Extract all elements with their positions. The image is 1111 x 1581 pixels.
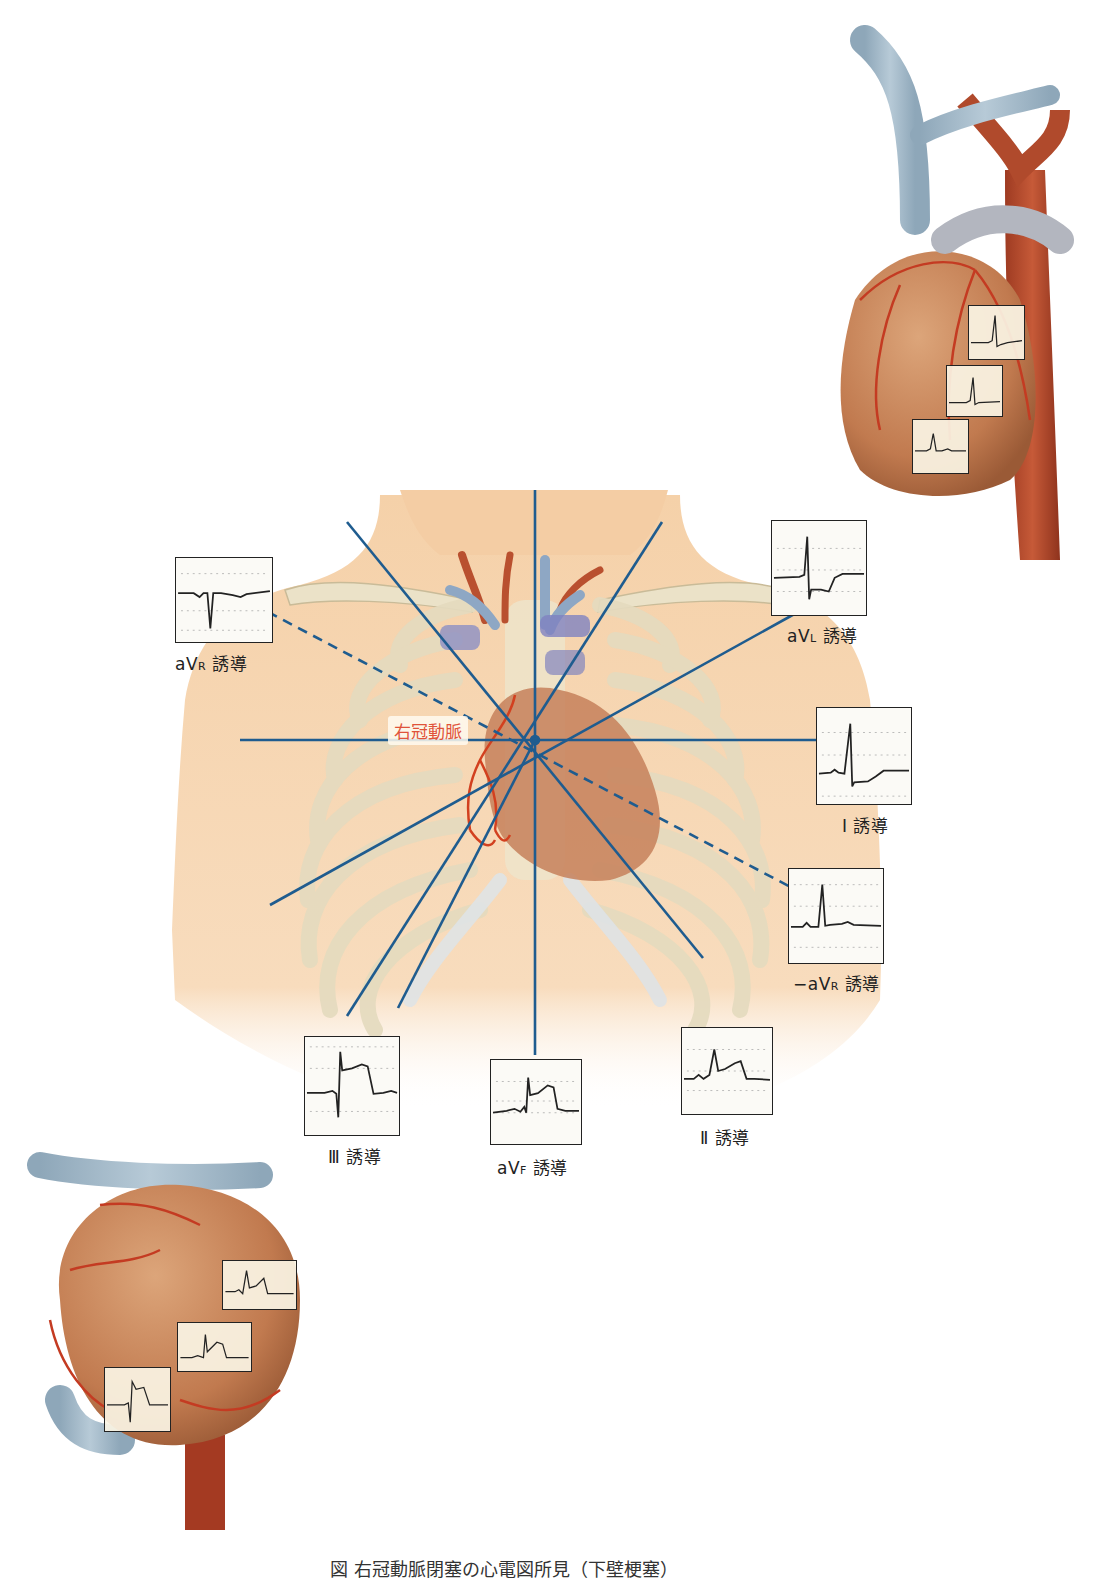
ecg-box-III [304,1036,400,1136]
ecg-box-minus-aVR [788,868,884,964]
inferior-heart [40,1165,300,1530]
lead-label-III: Ⅲ 誘導 [328,1143,381,1168]
right-coronary-artery-label: 右冠動脈 [388,716,468,745]
inferior-heart-ecg-1 [222,1260,297,1310]
axes-center [531,736,539,744]
ecg-box-aVF [490,1059,582,1145]
lead-label-aVF: aVF 誘導 [497,1154,568,1179]
ecg-box-I [816,707,912,805]
ecg-box-aVL [771,520,867,616]
anterior-heart [841,30,1060,560]
anterior-heart-ecg-3 [912,419,969,474]
lead-label-aVR: aVR 誘導 [175,650,247,675]
ecg-box-II [681,1027,773,1115]
anterior-heart-ecg-2 [946,365,1003,417]
inferior-heart-ecg-3 [104,1367,171,1432]
figure-caption: 図 右冠動脈閉塞の心電図所見（下壁梗塞） [330,1555,678,1581]
lead-label-II: Ⅱ 誘導 [700,1124,750,1149]
anterior-heart-ecg-1 [968,305,1025,360]
lead-label-I: Ⅰ 誘導 [842,812,888,837]
lead-label-aVL: aVL 誘導 [787,622,858,647]
inferior-heart-ecg-2 [177,1322,252,1372]
lead-label-minus-aVR: −aVR 誘導 [793,970,880,995]
ecg-box-aVR [175,557,273,643]
